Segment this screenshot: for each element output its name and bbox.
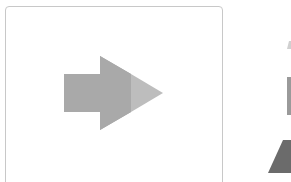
up-triangle-icon: [287, 41, 291, 49]
rectangle-icon: [287, 77, 291, 115]
canvas: [0, 0, 291, 182]
side-preview: [250, 0, 291, 182]
triangle-icon: [268, 140, 291, 173]
right-arrow-icon: [0, 0, 291, 182]
